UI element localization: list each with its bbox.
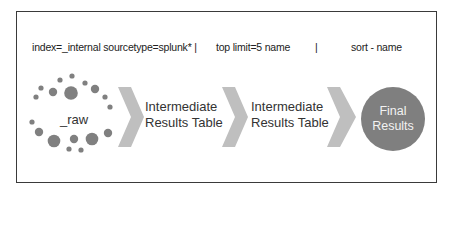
raw-dot	[57, 77, 62, 82]
raw-dot	[33, 94, 38, 99]
final-results-line1: Final	[379, 104, 406, 119]
raw-dot	[49, 88, 57, 96]
raw-dot	[104, 129, 112, 137]
raw-dot	[35, 128, 43, 136]
chevron-arrow-icon	[222, 87, 248, 147]
intermediate-results-2-line1: Intermediate	[251, 99, 329, 115]
intermediate-results-1-line1: Intermediate	[145, 99, 223, 115]
raw-label: _raw	[60, 112, 88, 128]
chevron-arrow-icon	[327, 87, 356, 147]
raw-dot	[102, 94, 107, 99]
final-results-circle: Final Results	[361, 87, 425, 151]
intermediate-results-2-line2: Results Table	[251, 115, 329, 131]
raw-dot	[29, 119, 34, 124]
raw-dot	[86, 133, 99, 146]
intermediate-results-2: Intermediate Results Table	[251, 99, 329, 131]
intermediate-results-1: Intermediate Results Table	[145, 99, 223, 131]
raw-dot	[38, 85, 43, 90]
intermediate-results-1-line2: Results Table	[145, 115, 223, 131]
chevron-arrow-icon	[118, 87, 144, 147]
final-results-line2: Results	[372, 119, 414, 134]
raw-dot	[48, 135, 61, 148]
raw-dot	[107, 104, 112, 109]
raw-dot	[64, 86, 78, 100]
raw-dot	[82, 80, 87, 85]
raw-dot	[91, 85, 99, 93]
raw-dot	[69, 73, 74, 78]
raw-dot	[78, 147, 83, 152]
raw-dot	[70, 135, 78, 143]
raw-dot	[66, 146, 71, 151]
